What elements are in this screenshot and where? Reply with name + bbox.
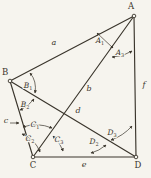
edge-d <box>10 81 136 157</box>
vertex-label-D: D <box>135 160 142 170</box>
vertex-dot-A <box>132 14 136 18</box>
angle-label-C1: C1 <box>31 120 40 130</box>
edge-b <box>33 16 134 157</box>
side-label-c: c <box>4 116 9 125</box>
side-label-e: e <box>82 160 87 169</box>
angle-label-D2: D2 <box>88 137 98 147</box>
side-label-f: f <box>142 80 148 89</box>
angle-label-C2: C2 <box>26 134 35 144</box>
vertex-label-A: A <box>127 1 135 11</box>
angle-label-C3: C3 <box>55 135 64 145</box>
geometry-diagram: ABCDabcdefA1A3B1B2C1C2C3D2D3 <box>0 0 151 178</box>
vertex-dot-D <box>134 155 138 159</box>
vertex-label-C: C <box>30 160 37 170</box>
vertex-label-B: B <box>2 67 8 77</box>
vertex-dot-C <box>31 155 35 159</box>
side-label-d: d <box>75 106 80 115</box>
labels-layer: ABCDabcdefA1A3B1B2C1C2C3D2D3 <box>2 1 148 170</box>
angle-label-B1: B1 <box>23 81 33 91</box>
angle-label-A3: A3 <box>115 48 125 58</box>
angle-label-B2: B2 <box>20 100 30 110</box>
vertex-dot-B <box>8 79 12 83</box>
side-label-a: a <box>52 38 57 47</box>
angle-label-A1: A1 <box>95 36 105 46</box>
side-label-b: b <box>86 84 91 93</box>
angle-label-D3: D3 <box>106 128 116 138</box>
edge-f <box>134 16 136 157</box>
